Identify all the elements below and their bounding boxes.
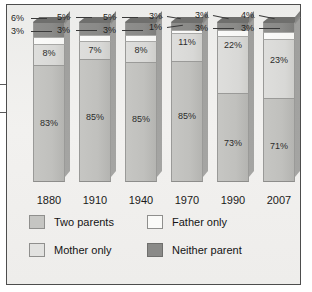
value-label-two-parents-1990: 73% — [218, 139, 248, 148]
leader-line-neither-parent-1940 — [122, 17, 138, 18]
legend-label-mother-only: Mother only — [54, 244, 111, 256]
callout-father-only-1880: 3% — [11, 27, 24, 36]
legend-label-neither-parent: Neither parent — [172, 244, 242, 256]
callout-neither-parent-1970: 3% — [149, 12, 162, 21]
value-label-two-parents-1910: 85% — [80, 113, 110, 122]
value-label-mother-only-1990: 22% — [218, 41, 248, 50]
axis-year-label-1880: 1880 — [29, 194, 69, 206]
segment-father-only-1910[interactable] — [79, 35, 111, 43]
legend-label-father-only: Father only — [172, 216, 227, 228]
value-label-two-parents-1970: 85% — [172, 112, 202, 121]
value-label-mother-only-1940: 8% — [126, 46, 156, 55]
leader-line-father-only-1880 — [31, 31, 52, 32]
plot-area: 8% 83% 7% 85% — [7, 5, 300, 210]
axis-year-label-1910: 1910 — [75, 194, 115, 206]
stacked-bar-1990: 22% 73% — [217, 22, 249, 182]
value-label-mother-only-1880: 8% — [34, 49, 64, 58]
segment-mother-only-2007[interactable]: 23% — [263, 40, 295, 99]
value-label-mother-only-2007: 23% — [264, 56, 294, 65]
bar-side-face-1910 — [111, 11, 116, 177]
two-parents-swatch-icon — [29, 215, 45, 229]
chart-figure-frame: 8% 83% 7% 85% — [6, 4, 301, 285]
axis-year-label-1940: 1940 — [121, 194, 161, 206]
callout-father-only-2007: 3% — [241, 24, 254, 33]
axis-year-label-1970: 1970 — [167, 194, 207, 206]
value-label-two-parents-1880: 83% — [34, 119, 64, 128]
chart-legend: Two parents Father only Mother only Neit… — [29, 215, 281, 257]
axis-year-label-1990: 1990 — [213, 194, 253, 206]
segment-two-parents-2007[interactable]: 71% — [263, 99, 295, 182]
callout-neither-parent-1940: 5% — [103, 13, 116, 22]
father-only-swatch-icon — [147, 215, 163, 229]
legend-item-two-parents[interactable]: Two parents — [29, 215, 147, 229]
value-label-two-parents-1940: 85% — [126, 115, 156, 124]
segment-mother-only-1910[interactable]: 7% — [79, 42, 111, 60]
bar-side-face-2007 — [295, 11, 300, 177]
legend-item-mother-only[interactable]: Mother only — [29, 243, 147, 257]
segment-mother-only-1940[interactable]: 8% — [125, 42, 157, 62]
callout-father-only-1990: 3% — [195, 24, 208, 33]
segment-two-parents-1970[interactable]: 85% — [171, 62, 203, 182]
value-label-two-parents-2007: 71% — [264, 142, 294, 151]
bar-group-1970[interactable]: 11% 85% — [171, 22, 203, 182]
stacked-bar-2007: 23% 71% — [263, 22, 295, 182]
segment-father-only-1880[interactable] — [33, 37, 65, 45]
bar-group-1940[interactable]: 8% 85% — [125, 22, 157, 182]
legend-label-two-parents: Two parents — [54, 216, 114, 228]
bar-group-2007[interactable]: 23% 71% — [263, 22, 295, 182]
mother-only-swatch-icon — [29, 243, 45, 257]
callout-neither-parent-1990: 3% — [195, 11, 208, 20]
leader-line-father-only-2007 — [259, 28, 280, 29]
bar-side-face-1970 — [203, 11, 208, 177]
callout-neither-parent-2007: 4% — [241, 11, 254, 20]
bar-side-face-1880 — [65, 11, 70, 177]
stacked-bar-1970: 11% 85% — [171, 22, 203, 182]
bar-group-1880[interactable]: 8% 83% — [33, 22, 65, 182]
segment-two-parents-1910[interactable]: 85% — [79, 60, 111, 182]
leader-line-father-only-1940 — [122, 30, 143, 31]
segment-father-only-2007[interactable] — [263, 32, 295, 40]
value-label-mother-only-1910: 7% — [80, 46, 110, 55]
bar-group-1910[interactable]: 7% 85% — [79, 22, 111, 182]
value-label-mother-only-1970: 11% — [172, 38, 202, 47]
bar-side-face-1940 — [157, 11, 162, 177]
axis-year-label-2007: 2007 — [259, 194, 299, 206]
callout-father-only-1970: 1% — [149, 23, 162, 32]
callout-father-only-1910: 3% — [57, 26, 70, 35]
segment-father-only-1940[interactable] — [125, 35, 157, 43]
segment-two-parents-1990[interactable]: 73% — [217, 94, 249, 182]
leader-line-neither-parent-1910 — [76, 17, 92, 18]
stacked-bar-1910: 7% 85% — [79, 22, 111, 182]
segment-mother-only-1880[interactable]: 8% — [33, 45, 65, 65]
segment-two-parents-1940[interactable]: 85% — [125, 63, 157, 182]
bar-side-face-1990 — [249, 11, 254, 177]
stacked-bar-1940: 8% 85% — [125, 22, 157, 182]
callout-neither-parent-1880: 6% — [11, 14, 24, 23]
segment-mother-only-1990[interactable]: 22% — [217, 37, 249, 93]
neither-parent-swatch-icon — [147, 243, 163, 257]
callout-neither-parent-1910: 5% — [57, 13, 70, 22]
legend-item-neither-parent[interactable]: Neither parent — [147, 243, 281, 257]
leader-line-neither-parent-1880 — [31, 18, 47, 19]
segment-mother-only-1970[interactable]: 11% — [171, 34, 203, 62]
bar-group-1990[interactable]: 22% 73% — [217, 22, 249, 182]
callout-father-only-1940: 3% — [103, 26, 116, 35]
leader-line-father-only-1910 — [76, 30, 97, 31]
legend-item-father-only[interactable]: Father only — [147, 215, 281, 229]
segment-two-parents-1880[interactable]: 83% — [33, 66, 65, 182]
stacked-bar-1880: 8% 83% — [33, 22, 65, 182]
leader-line-father-only-1990 — [213, 28, 234, 29]
